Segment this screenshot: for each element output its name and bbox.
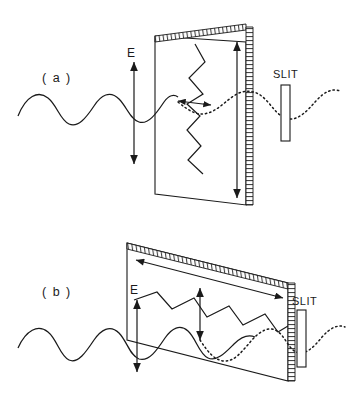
field-label-b: E xyxy=(130,283,139,297)
diagram-canvas: ( a ) E SLIT ( b ) E xyxy=(0,0,354,405)
field-label-a: E xyxy=(127,46,136,60)
physics-figure: ( a ) E SLIT ( b ) E xyxy=(0,0,354,405)
plate-right-hatch-a xyxy=(246,27,253,205)
slit-a xyxy=(281,85,290,141)
slit-b xyxy=(297,310,306,367)
panel-b-label: ( b ) xyxy=(42,285,72,299)
panel-a-label: ( a ) xyxy=(42,71,72,85)
slit-label-b: SLIT xyxy=(292,295,317,307)
slit-label-a: SLIT xyxy=(273,68,298,80)
